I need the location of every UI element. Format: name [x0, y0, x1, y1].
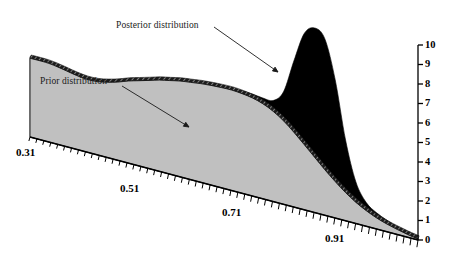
y-tick-label-3: 3: [425, 175, 430, 186]
y-tick-label-6: 6: [425, 117, 430, 128]
y-tick-label-1: 1: [425, 214, 430, 225]
distribution-plot: [0, 0, 462, 265]
y-tick-label-5: 5: [425, 136, 430, 147]
y-tick-label-8: 8: [425, 78, 430, 89]
annotation-posterior-label: Posterior distribution: [116, 20, 199, 30]
y-tick-label-2: 2: [425, 195, 430, 206]
y-tick-label-7: 7: [425, 97, 430, 108]
x-tick-label-2: 0.71: [222, 206, 241, 218]
y-tick-label-0: 0: [425, 234, 430, 245]
figure-canvas: Posterior distribution Prior distributio…: [0, 0, 462, 265]
y-tick-label-10: 10: [425, 39, 436, 50]
x-tick-label-1: 0.51: [120, 182, 139, 194]
x-tick-label-3: 0.91: [325, 232, 344, 244]
x-tick-label-0: 0.31: [16, 146, 35, 158]
y-tick-label-4: 4: [425, 156, 430, 167]
y-axis: [418, 45, 423, 240]
annotation-prior-label: Prior distribution: [40, 76, 107, 86]
y-tick-label-9: 9: [425, 58, 430, 69]
